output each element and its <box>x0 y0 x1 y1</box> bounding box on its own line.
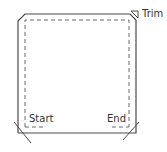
start-label: Start <box>29 114 53 124</box>
trim-triangle-icon <box>131 11 138 18</box>
diagram-canvas <box>0 0 167 152</box>
trim-label: Trim <box>142 9 163 19</box>
end-label: End <box>107 114 126 124</box>
seam-line <box>25 20 129 127</box>
